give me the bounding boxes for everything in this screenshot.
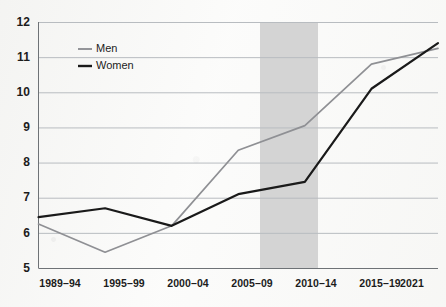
y-axis-tick-6: 6 xyxy=(6,226,30,240)
line-chart: Men Women 12 11 10 9 8 7 6 5 1989–94 199… xyxy=(0,0,446,307)
x-axis-tick-2010-14: 2010–14 xyxy=(279,277,353,289)
highlight-band xyxy=(260,22,318,268)
x-axis-tick-1989-94: 1989–94 xyxy=(23,277,97,289)
x-axis-tick-2000-04: 2000–04 xyxy=(151,277,225,289)
y-axis-tick-9: 9 xyxy=(6,120,30,134)
legend-label-men: Men xyxy=(96,42,117,54)
y-axis-tick-7: 7 xyxy=(6,190,30,204)
y-axis-tick-8: 8 xyxy=(6,155,30,169)
chart-plot-area xyxy=(0,0,446,307)
y-axis-tick-10: 10 xyxy=(6,85,30,99)
x-axis-tick-2021: 2021 xyxy=(375,277,446,289)
y-axis-tick-5: 5 xyxy=(6,261,30,275)
y-axis-tick-12: 12 xyxy=(6,15,30,29)
x-axis-tick-1995-99: 1995–99 xyxy=(87,277,161,289)
legend-label-women: Women xyxy=(96,59,134,71)
x-axis-tick-2005-09: 2005–09 xyxy=(215,277,289,289)
series-line-men xyxy=(39,48,439,252)
y-axis-tick-11: 11 xyxy=(6,50,30,64)
